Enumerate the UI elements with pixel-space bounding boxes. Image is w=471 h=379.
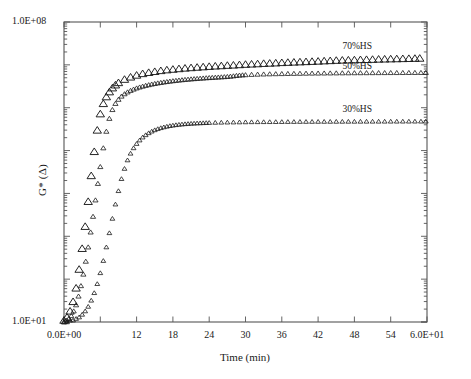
x-tick-label: 42	[313, 329, 323, 340]
data-point	[255, 72, 260, 76]
data-point	[225, 120, 230, 124]
data-point	[376, 119, 381, 123]
data-point	[119, 177, 124, 181]
data-point	[316, 120, 321, 124]
data-point	[249, 120, 254, 124]
data-point	[298, 120, 303, 124]
data-point	[297, 71, 302, 75]
data-point	[285, 71, 290, 75]
data-point	[255, 120, 260, 124]
data-point	[90, 148, 98, 155]
data-point	[83, 259, 88, 263]
data-point	[267, 72, 272, 76]
data-point	[310, 120, 315, 124]
series-label-70-hs: 70%HS	[342, 41, 372, 51]
x-tick-label: 30	[241, 329, 251, 340]
data-point	[370, 119, 375, 123]
data-point	[122, 167, 127, 171]
x-tick-label: 6.0E+01	[410, 329, 444, 340]
data-point	[418, 70, 423, 74]
data-point	[328, 71, 333, 75]
data-point	[419, 119, 424, 123]
x-tick-label: 18	[168, 329, 178, 340]
data-point	[406, 70, 411, 74]
data-point	[101, 146, 106, 150]
data-point	[358, 71, 363, 75]
data-point	[382, 119, 387, 123]
data-series-30-hs	[62, 119, 429, 323]
data-series-70-hs	[60, 55, 424, 324]
y-axis-title: G* (Δ)	[36, 164, 48, 196]
chart-figure: G* (Δ) Time (min) 1.0E+08 1.0E+01 0.0E+0…	[0, 0, 471, 379]
data-point	[90, 214, 95, 218]
x-tick-label: 24	[204, 329, 214, 340]
y-axis-top-label: 1.0E+08	[12, 15, 46, 26]
data-point	[322, 119, 327, 123]
data-point	[285, 120, 290, 124]
data-point	[412, 70, 417, 74]
data-point	[102, 93, 110, 100]
data-point	[95, 282, 100, 286]
data-point	[84, 198, 92, 205]
data-point	[140, 135, 145, 139]
y-axis-bottom-label: 1.0E+01	[12, 315, 46, 326]
data-point	[394, 70, 399, 74]
x-tick-label: 48	[349, 329, 359, 340]
data-point	[340, 119, 345, 123]
data-point	[261, 120, 266, 124]
data-point	[291, 71, 296, 75]
data-point	[340, 71, 345, 75]
data-point	[376, 71, 381, 75]
data-point	[110, 107, 115, 111]
data-point	[382, 71, 387, 75]
data-point	[83, 309, 88, 313]
data-point	[400, 119, 405, 123]
data-point	[101, 259, 106, 263]
data-point	[89, 298, 94, 302]
data-point	[104, 245, 109, 249]
data-point	[322, 71, 327, 75]
x-tick-label: 12	[132, 329, 142, 340]
data-series-50-hs	[61, 70, 428, 324]
data-point	[413, 119, 418, 123]
data-point	[113, 101, 118, 105]
data-point	[358, 119, 363, 123]
data-point	[107, 231, 112, 235]
chart-plot-area	[0, 0, 471, 379]
series-label-30-hs: 30%HS	[342, 104, 372, 114]
data-point	[334, 71, 339, 75]
data-point	[78, 284, 83, 288]
data-point	[125, 158, 130, 162]
data-point	[261, 72, 266, 76]
data-point	[352, 119, 357, 123]
data-point	[231, 120, 236, 124]
data-point	[131, 146, 136, 150]
data-point	[292, 120, 297, 124]
data-point	[370, 71, 375, 75]
data-point	[304, 120, 309, 124]
data-point	[110, 216, 115, 220]
data-point	[93, 198, 98, 202]
x-tick-label: 36	[277, 329, 287, 340]
data-point	[406, 119, 411, 123]
data-point	[88, 230, 93, 234]
data-point	[113, 202, 118, 206]
data-point	[334, 119, 339, 123]
data-point	[249, 72, 254, 76]
data-point	[128, 151, 133, 155]
data-point	[400, 70, 405, 74]
data-point	[98, 271, 103, 275]
data-point	[107, 116, 112, 120]
data-point	[116, 189, 121, 193]
data-point	[316, 71, 321, 75]
data-point	[346, 71, 351, 75]
data-point	[279, 120, 284, 124]
data-point	[104, 129, 109, 133]
data-point	[388, 70, 393, 74]
x-tick-label: 0.0E+00	[47, 329, 81, 340]
data-point	[243, 120, 248, 124]
data-point	[96, 110, 104, 117]
data-point	[99, 100, 107, 107]
data-point	[81, 223, 89, 230]
data-point	[364, 119, 369, 123]
